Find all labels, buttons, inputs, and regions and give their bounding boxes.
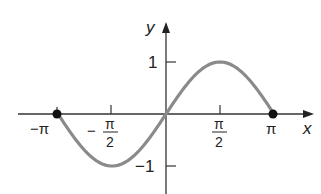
y-axis-label: y xyxy=(145,18,156,37)
x-tick-label-neg-half-pi-den: 2 xyxy=(106,134,114,150)
x-tick-label-pi: π xyxy=(266,120,276,137)
y-tick-label-1: 1 xyxy=(148,53,157,72)
endpoint-pi xyxy=(269,110,278,119)
x-tick-label-half-pi-den: 2 xyxy=(215,134,223,150)
endpoint-neg-pi xyxy=(53,110,62,119)
y-axis-arrow-icon xyxy=(162,22,170,33)
x-tick-label-half-pi-num: π xyxy=(214,116,224,132)
x-tick-label-neg-half-pi-num: π xyxy=(105,116,115,132)
x-tick-label-neg-pi: −π xyxy=(30,120,49,137)
x-tick-label-neg-half-pi-minus: − xyxy=(87,122,96,139)
x-axis-arrow-icon xyxy=(303,110,314,118)
x-axis-label: x xyxy=(302,119,312,138)
sine-graph: y x −π π − π 2 π 2 1 −1 xyxy=(0,0,321,194)
y-tick-label-neg-1: −1 xyxy=(135,157,154,176)
